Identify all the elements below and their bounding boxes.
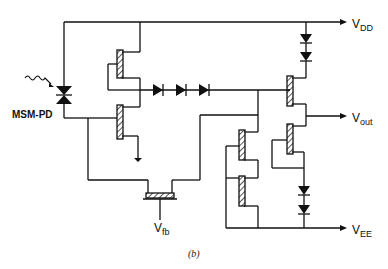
level-shift-diodes (153, 84, 209, 96)
transistor-m6 (239, 176, 245, 206)
vdd-arrow-icon (340, 19, 347, 25)
vdd-diodes (300, 34, 312, 64)
circuit-diagram: VDD Vout VEE Vfb MSM-PD (b) (0, 0, 388, 269)
vee-diodes (298, 186, 310, 216)
transistor-m3 (287, 76, 293, 106)
transistor-m4 (287, 124, 293, 154)
vdd-label: VDD (352, 17, 374, 33)
diode-icon (300, 52, 312, 61)
vout-label: Vout (352, 111, 373, 127)
transistor-m1 (117, 50, 123, 78)
vee-label: VEE (352, 223, 372, 239)
transistor-fb (146, 193, 174, 198)
diode-icon (199, 84, 209, 96)
transistor-m2 (117, 105, 123, 139)
diode-icon (300, 34, 312, 43)
figure-caption: (b) (188, 248, 200, 260)
ground-arrow-icon (134, 158, 142, 162)
diode-icon (176, 84, 186, 96)
diode-icon (298, 205, 310, 214)
photodiode-label: MSM-PD (12, 109, 53, 120)
msm-photodiode-icon (25, 76, 72, 104)
vout-arrow-icon (340, 113, 347, 119)
diode-icon (153, 84, 163, 96)
transistor-m5 (239, 130, 245, 160)
light-wave-icon (25, 76, 51, 84)
vee-arrow-icon (340, 225, 347, 231)
vfb-label: Vfb (154, 221, 170, 237)
diode-icon (298, 186, 310, 195)
